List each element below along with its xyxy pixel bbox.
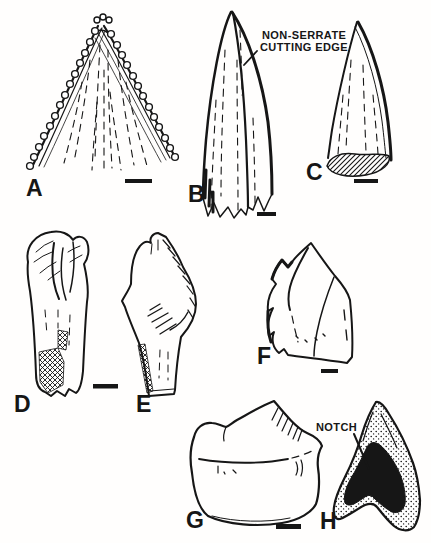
panel-label-e: E: [136, 391, 151, 417]
figure-canvas: A NON-SERRATE CUTTING EDGE B: [0, 0, 431, 543]
panel-e-tooth-drawing: E: [122, 233, 196, 417]
panel-c-hatched-base: [327, 154, 389, 177]
cutting-edge-annotation-line1: NON-SERRATE: [262, 29, 346, 41]
panel-label-g: G: [186, 507, 204, 533]
panel-label-d: D: [14, 391, 31, 417]
panel-g-tooth-drawing: G: [186, 401, 322, 533]
notch-annotation: NOTCH: [316, 421, 357, 433]
panel-label-b: B: [188, 181, 205, 207]
scale-bar-a: [125, 179, 152, 183]
scale-bar-g: [276, 524, 301, 529]
panel-e-crosshatch-band: [138, 344, 153, 393]
scale-bar-c: [354, 179, 378, 183]
panel-label-a: A: [26, 175, 43, 201]
panel-label-h: H: [320, 508, 337, 534]
scale-bar-d: [93, 384, 118, 389]
panel-f-tooth-drawing: F: [257, 243, 352, 373]
panel-d-crown-hatching: [34, 241, 82, 280]
panel-d-crosshatch-base: [39, 348, 64, 393]
panel-g-cusp-hatching: [272, 408, 302, 441]
scale-bar-f: [321, 369, 338, 373]
panel-e-valley-hatching: [148, 304, 188, 334]
panel-d-tooth-drawing: D: [14, 231, 118, 417]
cutting-edge-annotation-line2: CUTTING EDGE: [260, 41, 348, 53]
panel-a-tooth-drawing: A: [26, 14, 178, 201]
panel-label-c: C: [306, 159, 323, 185]
panel-b-tooth-drawing: NON-SERRATE CUTTING EDGE B: [188, 12, 348, 218]
figure-plate: A NON-SERRATE CUTTING EDGE B: [0, 0, 431, 543]
panel-d-crosshatch-patch: [58, 330, 68, 350]
panel-f-bold-edge: [272, 260, 292, 279]
panel-e-root-striations: [159, 350, 168, 380]
scale-bar-b: [257, 212, 276, 216]
panel-h-tooth-drawing: NOTCH H: [316, 402, 420, 534]
panel-label-f: F: [257, 343, 271, 369]
